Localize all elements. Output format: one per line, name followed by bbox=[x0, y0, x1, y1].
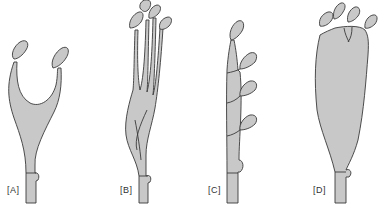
panel-label-c: [C] bbox=[208, 185, 221, 195]
panel-label-a: [A] bbox=[7, 185, 20, 195]
stamen-diagram bbox=[0, 0, 385, 204]
panel-b-drawing bbox=[126, 0, 172, 203]
panel-label-d: [D] bbox=[313, 185, 326, 195]
panel-c-drawing bbox=[227, 21, 257, 203]
panel-d-drawing bbox=[315, 3, 377, 203]
panel-label-b: [B] bbox=[120, 185, 133, 195]
panel-a-drawing bbox=[9, 41, 69, 203]
